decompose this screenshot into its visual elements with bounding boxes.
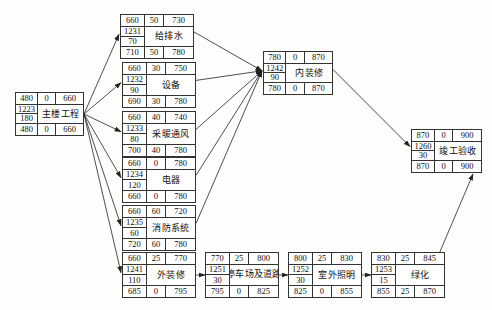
edge-interior-decoration-to-completion-acceptance bbox=[333, 69, 410, 146]
node-activity-name: 采暖通风 bbox=[147, 124, 195, 144]
node-top-right: 780 bbox=[166, 158, 195, 169]
node-duration: 30 bbox=[412, 151, 434, 160]
node-code: 1234 bbox=[123, 170, 146, 180]
node-bottom-row: 7950825 bbox=[206, 285, 278, 297]
edge-main-building-to-water-supply-drainage bbox=[84, 34, 119, 114]
node-code-duration-stack: 123170 bbox=[121, 27, 145, 46]
node-code: 1231 bbox=[121, 27, 144, 37]
activity-node-water-supply-drainage[interactable]: 66050730123170给排水71050780 bbox=[120, 14, 194, 59]
node-bottom-mid: 30 bbox=[147, 96, 166, 107]
node-bottom-right: 780 bbox=[166, 239, 195, 250]
node-middle-row: 1223180主楼工程 bbox=[16, 105, 83, 123]
node-middle-row: 123380采暖通风 bbox=[123, 124, 195, 144]
node-bottom-right: 780 bbox=[164, 47, 193, 58]
node-top-mid: 25 bbox=[147, 253, 166, 264]
node-bottom-right: 900 bbox=[453, 161, 481, 172]
edge-electrical-to-interior-decoration bbox=[196, 71, 262, 176]
node-code-duration-stack: 126030 bbox=[412, 142, 435, 160]
node-bottom-right: 825 bbox=[249, 286, 278, 297]
node-bottom-row: 72060780 bbox=[123, 238, 195, 250]
edge-equipment-to-interior-decoration bbox=[196, 71, 262, 81]
activity-node-exterior-decoration[interactable]: 660257701241110外装修6850795 bbox=[122, 252, 196, 298]
node-top-right: 740 bbox=[166, 112, 195, 123]
activity-node-fire-protection-system[interactable]: 66060720123560消防系统72060780 bbox=[122, 205, 196, 251]
node-bottom-mid: 0 bbox=[286, 83, 304, 94]
node-top-right: 720 bbox=[166, 206, 195, 217]
node-bottom-right: 780 bbox=[166, 96, 195, 107]
node-duration: 80 bbox=[123, 134, 146, 144]
node-middle-row: 125230室外照明 bbox=[289, 265, 361, 285]
node-top-mid: 25 bbox=[313, 253, 332, 264]
node-activity-name: 竣工验收 bbox=[435, 142, 481, 160]
node-duration: 90 bbox=[264, 73, 285, 82]
node-bottom-mid: 0 bbox=[230, 286, 249, 297]
node-activity-name: 绿化 bbox=[396, 265, 444, 285]
activity-node-main-building[interactable]: 48006601223180主楼工程4800660 bbox=[15, 92, 84, 136]
edge-main-building-to-equipment bbox=[84, 83, 121, 114]
node-bottom-right: 780 bbox=[166, 145, 195, 156]
node-top-mid: 50 bbox=[145, 15, 164, 26]
node-bottom-left: 710 bbox=[121, 47, 145, 58]
node-code-duration-stack: 123560 bbox=[123, 218, 147, 238]
node-middle-row: 124290内装修 bbox=[264, 64, 332, 82]
node-bottom-left: 780 bbox=[264, 83, 286, 94]
node-code-duration-stack: 125130 bbox=[206, 265, 230, 285]
node-top-right: 730 bbox=[164, 15, 193, 26]
activity-node-electrical[interactable]: 66007801234120电器6600780 bbox=[122, 157, 196, 203]
edge-heating-ventilation-to-interior-decoration bbox=[196, 71, 262, 130]
node-bottom-row: 6600780 bbox=[123, 190, 195, 202]
node-code-duration-stack: 123290 bbox=[123, 75, 147, 95]
node-duration: 120 bbox=[123, 180, 146, 190]
node-top-row: 4800660 bbox=[16, 93, 83, 105]
node-bottom-left: 870 bbox=[412, 161, 435, 172]
node-middle-row: 126030竣工验收 bbox=[412, 142, 481, 160]
node-duration: 70 bbox=[121, 37, 144, 47]
node-top-right: 870 bbox=[305, 52, 332, 63]
node-duration: 90 bbox=[123, 85, 146, 95]
node-bottom-mid: 0 bbox=[38, 124, 56, 135]
node-code-duration-stack: 123380 bbox=[123, 124, 147, 144]
node-top-mid: 25 bbox=[230, 253, 249, 264]
node-middle-row: 125315绿化 bbox=[372, 265, 444, 285]
activity-node-interior-decoration[interactable]: 7800870124290内装修7800870 bbox=[263, 51, 333, 95]
node-top-mid: 0 bbox=[286, 52, 304, 63]
node-code: 1233 bbox=[123, 124, 146, 134]
edge-main-building-to-heating-ventilation bbox=[84, 114, 121, 132]
node-activity-name: 停车场及道路 bbox=[230, 265, 278, 285]
node-bottom-right: 660 bbox=[56, 124, 83, 135]
node-activity-name: 给排水 bbox=[145, 27, 193, 46]
activity-node-completion-acceptance[interactable]: 8700900126030竣工验收8700900 bbox=[411, 129, 482, 173]
network-diagram-canvas: 48006601223180主楼工程480066066050730123170给… bbox=[0, 0, 492, 310]
node-top-row: 8700900 bbox=[412, 130, 481, 142]
node-code-duration-stack: 124290 bbox=[264, 64, 286, 82]
node-code: 1223 bbox=[16, 105, 37, 114]
node-activity-name: 电器 bbox=[147, 170, 195, 190]
node-duration: 15 bbox=[372, 275, 395, 285]
node-bottom-left: 855 bbox=[372, 286, 396, 297]
activity-node-heating-ventilation[interactable]: 66040740123380采暖通风70040780 bbox=[122, 111, 196, 157]
activity-node-outdoor-lighting[interactable]: 80025830125230室外照明8250855 bbox=[288, 252, 362, 298]
node-bottom-row: 8250855 bbox=[289, 285, 361, 297]
node-activity-name: 消防系统 bbox=[147, 218, 195, 238]
node-bottom-left: 720 bbox=[123, 239, 147, 250]
node-bottom-right: 780 bbox=[166, 191, 195, 202]
node-top-mid: 0 bbox=[435, 130, 454, 141]
node-bottom-mid: 0 bbox=[147, 286, 166, 297]
node-top-right: 900 bbox=[453, 130, 481, 141]
node-bottom-mid: 0 bbox=[435, 161, 454, 172]
node-duration: 30 bbox=[206, 275, 229, 285]
node-code: 1251 bbox=[206, 265, 229, 275]
node-bottom-left: 795 bbox=[206, 286, 230, 297]
activity-node-equipment[interactable]: 66030750123290设备69030780 bbox=[122, 62, 196, 108]
node-top-right: 845 bbox=[415, 253, 444, 264]
node-top-mid: 60 bbox=[147, 206, 166, 217]
node-middle-row: 123560消防系统 bbox=[123, 218, 195, 238]
node-middle-row: 123290设备 bbox=[123, 75, 195, 95]
activity-node-landscaping[interactable]: 83025845125315绿化85525870 bbox=[371, 252, 445, 298]
node-top-row: 66050730 bbox=[121, 15, 193, 27]
node-top-right: 830 bbox=[332, 253, 361, 264]
node-bottom-row: 69030780 bbox=[123, 95, 195, 107]
activity-node-parking-and-roads[interactable]: 77025800125130停车场及道路7950825 bbox=[205, 252, 279, 298]
node-code: 1235 bbox=[123, 218, 146, 228]
node-top-left: 660 bbox=[121, 15, 145, 26]
